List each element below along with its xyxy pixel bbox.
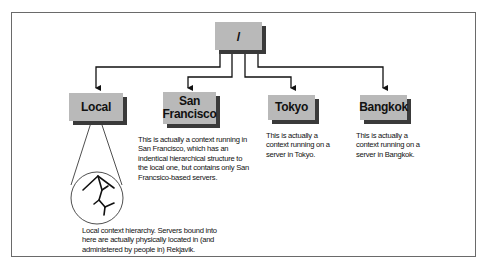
local-hierarchy-description: Local context hierarchy. Servers bound i… bbox=[82, 226, 222, 254]
node-san-francisco: San Francisco bbox=[163, 92, 216, 124]
node-san-francisco-label: San Francisco bbox=[163, 92, 216, 124]
root-node: / bbox=[215, 22, 262, 50]
bangkok-description: This is actually a context running on a … bbox=[356, 131, 424, 159]
node-tokyo: Tokyo bbox=[268, 95, 315, 120]
san-francisco-description: This is actually a context running in Sa… bbox=[138, 135, 250, 182]
sf-label-line-1: San bbox=[179, 94, 200, 108]
node-tokyo-label: Tokyo bbox=[268, 95, 315, 120]
node-bangkok-label: Bangkok bbox=[360, 95, 407, 120]
node-bangkok: Bangkok bbox=[360, 95, 407, 120]
sf-label-line-2: Francisco bbox=[163, 107, 217, 121]
node-local-label: Local bbox=[69, 93, 123, 121]
tokyo-description: This is actually a context running on a … bbox=[266, 131, 334, 159]
node-local: Local bbox=[69, 93, 123, 121]
root-label: / bbox=[215, 22, 262, 50]
